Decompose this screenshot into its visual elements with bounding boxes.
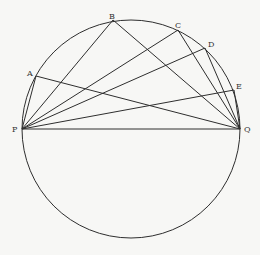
label-E: E — [236, 82, 242, 91]
label-D: D — [208, 40, 214, 49]
label-P: P — [12, 125, 18, 134]
label-Q: Q — [244, 125, 251, 134]
segment-PD — [22, 48, 205, 129]
circle-chords-diagram: P Q A B C D E — [0, 0, 260, 255]
segment-PB — [22, 20, 113, 129]
point-labels: P Q A B C D E — [12, 12, 251, 134]
chord-segments — [22, 20, 240, 129]
label-B: B — [109, 12, 115, 21]
label-A: A — [26, 69, 33, 78]
segment-PE — [22, 90, 234, 129]
label-C: C — [175, 21, 181, 30]
segment-QD — [205, 48, 240, 129]
